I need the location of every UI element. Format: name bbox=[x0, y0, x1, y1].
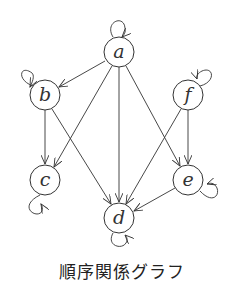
loop-f bbox=[197, 70, 212, 86]
node-label-e: e bbox=[182, 168, 193, 190]
loop-e bbox=[200, 183, 218, 198]
node-label-a: a bbox=[113, 40, 124, 62]
edges bbox=[45, 61, 188, 211]
edge-a-c bbox=[54, 66, 112, 167]
edge-e-d bbox=[134, 188, 175, 211]
node-d: d bbox=[104, 203, 134, 233]
node-e: e bbox=[173, 165, 203, 195]
node-c: c bbox=[30, 165, 60, 195]
node-a: a bbox=[104, 37, 134, 67]
loop-d bbox=[111, 233, 127, 246]
diagram-caption: 順序関係グラフ bbox=[0, 258, 244, 283]
loop-a bbox=[111, 21, 126, 37]
node-b: b bbox=[30, 80, 60, 110]
node-label-b: b bbox=[39, 83, 51, 105]
node-f: f bbox=[173, 80, 203, 110]
edge-a-b bbox=[59, 61, 105, 87]
loop-c bbox=[29, 195, 42, 214]
node-label-c: c bbox=[40, 168, 51, 190]
edge-b-d bbox=[52, 109, 111, 204]
node-label-d: d bbox=[113, 206, 125, 228]
edge-a-e bbox=[126, 66, 180, 166]
loop-b bbox=[22, 70, 34, 87]
